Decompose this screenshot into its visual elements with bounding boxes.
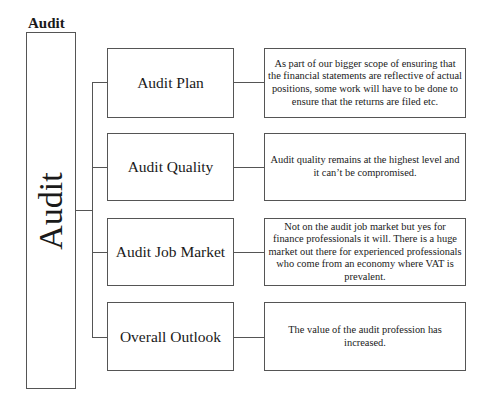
branch-connector-2 (92, 167, 107, 168)
description-node-audit-quality: Audit quality remains at the highest lev… (264, 133, 466, 201)
root-node: Audit (26, 32, 76, 389)
description-text: Not on the audit job market but yes for … (268, 221, 462, 284)
desc-connector-2 (234, 167, 264, 168)
diagram-header: Audit (28, 14, 65, 32)
branch-label: Overall Outlook (120, 328, 221, 346)
description-text: The value of the audit profession has in… (268, 324, 462, 349)
desc-connector-4 (234, 337, 264, 338)
root-connector (76, 210, 92, 211)
description-text: As part of our bigger scope of ensuring … (268, 58, 462, 108)
branch-spine (92, 82, 93, 338)
description-node-audit-job-market: Not on the audit job market but yes for … (264, 218, 466, 286)
desc-connector-1 (234, 82, 264, 83)
branch-node-audit-quality: Audit Quality (107, 133, 234, 201)
branch-connector-1 (92, 82, 107, 83)
branch-connector-3 (92, 252, 107, 253)
branch-node-overall-outlook: Overall Outlook (107, 302, 234, 371)
description-node-audit-plan: As part of our bigger scope of ensuring … (264, 48, 466, 118)
branch-node-audit-plan: Audit Plan (107, 48, 234, 118)
description-text: Audit quality remains at the highest lev… (268, 154, 462, 179)
desc-connector-3 (234, 252, 264, 253)
branch-label: Audit Job Market (116, 243, 225, 261)
branch-label: Audit Plan (137, 74, 204, 92)
branch-connector-4 (92, 337, 107, 338)
branch-label: Audit Quality (128, 158, 214, 176)
branch-node-audit-job-market: Audit Job Market (107, 218, 234, 286)
root-label: Audit (34, 172, 68, 249)
description-node-overall-outlook: The value of the audit profession has in… (264, 302, 466, 371)
